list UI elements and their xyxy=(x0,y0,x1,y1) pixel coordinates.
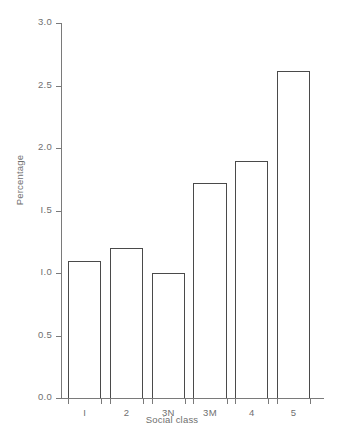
bar-chart: Percentage 0.00.5I.0I.52.02.53.0 I23N3M4… xyxy=(0,0,344,446)
x-tick-mark xyxy=(193,398,194,404)
bar xyxy=(68,261,101,399)
y-tick-mark xyxy=(56,336,61,337)
y-tick-mark xyxy=(56,23,61,24)
y-axis-title: Percentage xyxy=(14,120,28,240)
y-tick-label: 2.0 xyxy=(38,141,52,152)
x-tick-mark xyxy=(277,398,278,404)
bar xyxy=(110,248,143,398)
x-tick-mark xyxy=(68,398,69,404)
x-tick-mark xyxy=(143,398,144,404)
x-tick-mark xyxy=(227,398,228,404)
bar xyxy=(152,273,185,398)
x-tick-mark xyxy=(185,398,186,404)
y-tick-mark xyxy=(56,86,61,87)
y-tick-label: 0.0 xyxy=(38,391,52,402)
y-tick-label: 3.0 xyxy=(38,16,52,27)
plot-area: 0.00.5I.0I.52.02.53.0 I23N3M45 xyxy=(61,23,324,398)
y-axis-line xyxy=(61,23,62,398)
y-tick-mark xyxy=(56,273,61,274)
x-tick-mark xyxy=(310,398,311,404)
y-tick-label: 2.5 xyxy=(38,79,52,90)
y-tick-label: I.0 xyxy=(41,266,52,277)
y-tick-mark xyxy=(56,211,61,212)
y-tick-mark xyxy=(56,398,61,399)
bar xyxy=(193,183,226,398)
y-tick-label: I.5 xyxy=(41,204,52,215)
x-tick-mark xyxy=(235,398,236,404)
x-tick-mark xyxy=(110,398,111,404)
bar xyxy=(235,161,268,399)
y-tick-label: 0.5 xyxy=(38,329,52,340)
x-axis-title: Social class xyxy=(0,414,344,425)
x-tick-mark xyxy=(101,398,102,404)
bar xyxy=(277,71,310,399)
x-tick-mark xyxy=(268,398,269,404)
y-tick-mark xyxy=(56,148,61,149)
x-tick-mark xyxy=(152,398,153,404)
